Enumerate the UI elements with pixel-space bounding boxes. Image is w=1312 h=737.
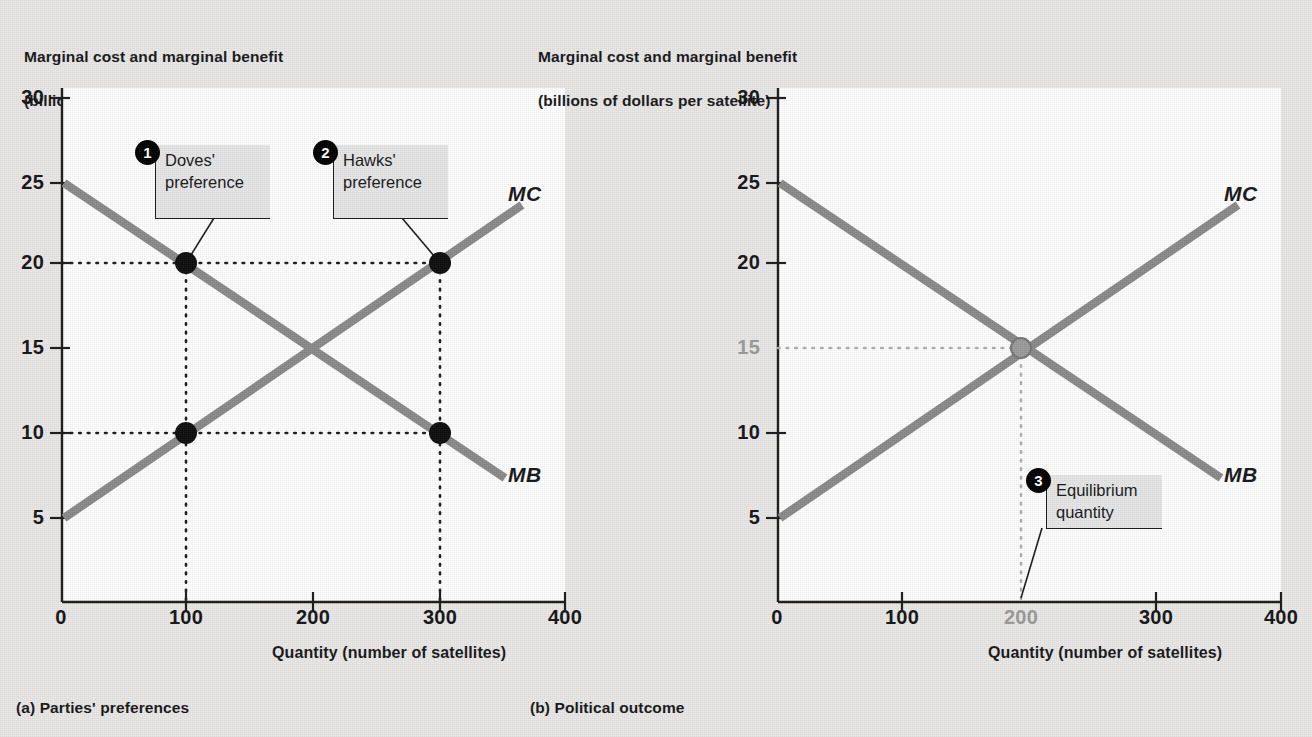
panel-b-mb-curve [780,183,1221,478]
panel-b-callout-equilibrium-badge: 3 [1026,468,1051,493]
panel-b-data-points [1011,338,1031,358]
panel-a-ylabel-30: 30 [0,86,44,109]
panel-b-ylabel-30: 30 [716,86,760,109]
panel-b-ylabel-15: 15 [716,336,760,359]
panel-b-leader-3 [1021,528,1042,598]
panel-b-ylabel-25: 25 [716,171,760,194]
panel-a-callout-hawks-badge: 2 [313,140,338,165]
panel-a-curves [64,183,522,518]
panel-a-ylabel-20: 20 [0,251,44,274]
panel-b-mc-label: MC [1224,182,1257,206]
panel-b-guide-lines [778,348,1022,602]
panel-a-xlabel-200: 200 [282,606,344,629]
panel-a-ylabel-15: 15 [0,336,44,359]
panel-b-xlabel-200: 200 [990,606,1052,629]
panel-a-origin-label: 0 [40,606,82,629]
panel-b-xlabel-300: 300 [1125,606,1187,629]
panel-a-point-doves-mc [175,422,197,444]
panel-b-ylabel-20: 20 [716,251,760,274]
panel-a-ylabel-10: 10 [0,421,44,444]
panel-b-point-equilibrium [1011,338,1031,358]
panel-a-leader-lines [186,218,440,263]
panel-a-point-doves-mb [175,252,197,274]
panel-a-point-hawks-mc [429,252,451,274]
panel-a-callout-hawks-box: Hawks' preference [333,145,448,219]
panel-a-mc-curve [64,205,522,518]
panel-b-leader-lines [1021,528,1042,598]
panel-a-x-axis-caption: Quantity (number of satellites) [272,644,506,662]
panel-political-outcome: Marginal cost and marginal benefit (bill… [530,0,1312,737]
panel-a-callout-doves-box: Doves' preference [155,145,270,219]
panel-a-caption: (a) Parties' preferences [16,699,189,717]
panel-b-ylabel-10: 10 [716,421,760,444]
panel-a-ylabel-5: 5 [0,506,44,529]
panel-b-caption: (b) Political outcome [530,699,685,717]
panel-b-callout-equilibrium-box: Equilibrium quantity [1046,475,1162,529]
panel-a-point-hawks-mb [429,422,451,444]
panel-b-xlabel-400: 400 [1250,606,1312,629]
panel-b-xlabel-100: 100 [871,606,933,629]
panel-b-mc-curve [780,205,1238,518]
panel-a-callout-doves-badge: 1 [135,140,160,165]
panel-a-ylabel-25: 25 [0,171,44,194]
panel-a-xlabel-100: 100 [155,606,217,629]
panel-b-mb-label: MB [1224,463,1257,487]
panel-a-xlabel-300: 300 [409,606,471,629]
panel-b-origin-label: 0 [756,606,798,629]
panel-b-curves [780,183,1238,518]
panel-b-x-axis-caption: Quantity (number of satellites) [988,644,1222,662]
panel-b-ylabel-5: 5 [716,506,760,529]
